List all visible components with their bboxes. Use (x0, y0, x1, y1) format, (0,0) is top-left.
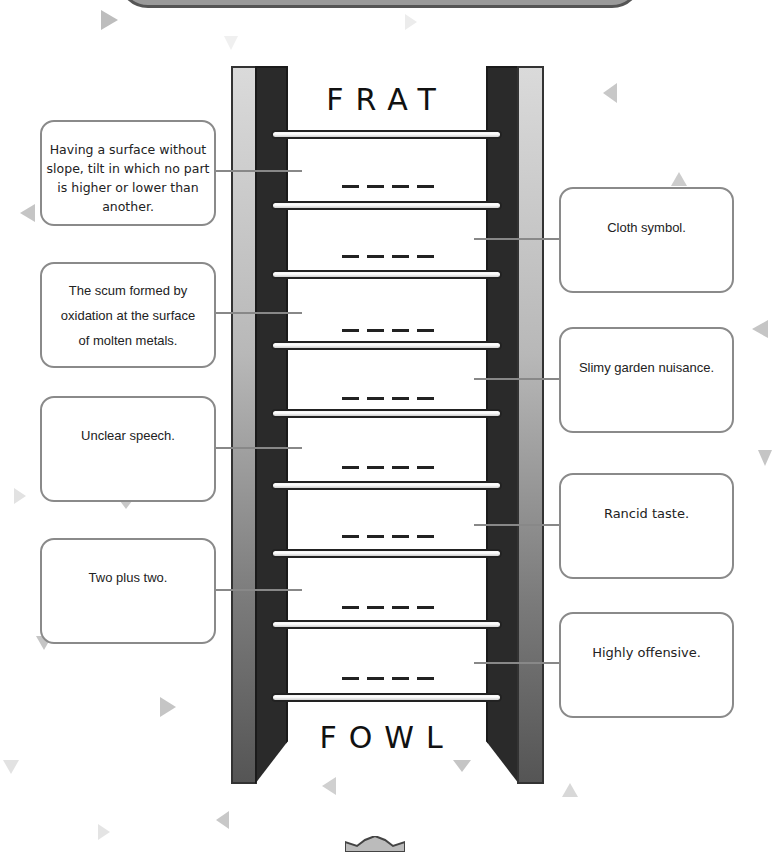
clue-connector (214, 589, 302, 591)
ladder-rung (271, 270, 502, 279)
answer-blank-5[interactable] (342, 466, 434, 469)
ladder-left-rail-inner (255, 66, 288, 784)
ladder-right-rail-outer (517, 66, 544, 784)
answer-blank-7[interactable] (342, 606, 434, 609)
crown-icon (345, 836, 405, 852)
ladder-rung (271, 481, 502, 490)
ladder-rung (271, 201, 502, 210)
decor-triangle-icon (603, 83, 617, 103)
decor-triangle-icon (405, 14, 417, 30)
ladder-rung (271, 409, 502, 418)
ladder-rung (271, 341, 502, 350)
clue-right-2: Slimy garden nuisance. (559, 327, 734, 433)
decor-triangle-icon (3, 760, 19, 774)
clue-right-4: Highly offensive. (559, 612, 734, 718)
decor-triangle-icon (752, 320, 768, 338)
answer-blank-4[interactable] (342, 397, 434, 400)
decor-triangle-icon (453, 760, 471, 772)
clue-connector (214, 312, 302, 314)
ladder-rung (271, 549, 502, 558)
clue-left-1: Having a surface without slope, tilt in … (40, 120, 216, 226)
decor-triangle-icon (160, 697, 176, 717)
clue-connector (474, 378, 562, 380)
clue-connector (214, 170, 302, 172)
clue-connector (474, 524, 562, 526)
clue-connector (214, 447, 302, 449)
title-banner (118, 0, 642, 8)
clue-left-2: The scum formed by oxidation at the surf… (40, 262, 216, 368)
answer-blank-8[interactable] (342, 677, 434, 680)
end-word: FOWL (272, 720, 502, 755)
ladder-rung (271, 620, 502, 629)
decor-triangle-icon (562, 783, 578, 797)
ladder-rung (271, 693, 502, 702)
decor-triangle-icon (224, 36, 238, 50)
answer-blank-6[interactable] (342, 535, 434, 538)
answer-blank-3[interactable] (342, 329, 434, 332)
ladder-rung (271, 130, 502, 139)
clue-connector (474, 662, 562, 664)
clue-right-1: Cloth symbol. (559, 187, 734, 293)
decor-triangle-icon (20, 204, 35, 222)
decor-triangle-icon (671, 172, 687, 186)
decor-triangle-icon (98, 824, 110, 840)
decor-triangle-icon (322, 777, 336, 795)
answer-blank-1[interactable] (342, 185, 434, 188)
start-word: FRAT (272, 82, 502, 117)
clue-connector (474, 238, 562, 240)
decor-triangle-icon (758, 450, 772, 466)
decor-triangle-icon (101, 10, 118, 30)
ladder-left-rail-outer (231, 66, 257, 784)
clue-right-3: Rancid taste. (559, 473, 734, 579)
decor-triangle-icon (216, 811, 229, 829)
answer-blank-2[interactable] (342, 255, 434, 258)
decor-triangle-icon (14, 488, 26, 504)
ladder-right-rail-inner (486, 66, 519, 784)
clue-left-3: Unclear speech. (40, 396, 216, 502)
clue-left-4: Two plus two. (40, 538, 216, 644)
